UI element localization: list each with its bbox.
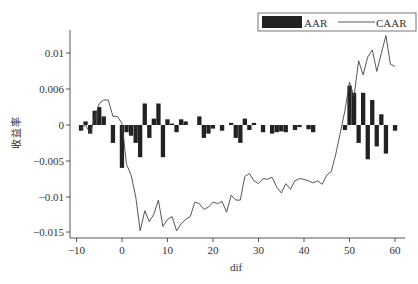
aar-bar <box>357 125 361 143</box>
aar-bar <box>297 125 301 127</box>
x-tick-label: 20 <box>208 244 220 256</box>
aar-bar <box>211 125 215 129</box>
aar-bars <box>79 86 397 168</box>
legend: AAR CAAR <box>258 13 416 31</box>
x-tick-label: 0 <box>119 244 125 256</box>
caar-line <box>81 36 395 231</box>
aar-bar <box>147 125 151 138</box>
legend-aar-swatch <box>262 16 302 28</box>
aar-bar <box>197 116 201 125</box>
aar-bar <box>184 121 188 125</box>
aar-bar <box>361 93 365 125</box>
y-ticks: 0.010.0060−0.005−0.01−0.015 <box>33 47 70 238</box>
x-ticks: −100102030405060 <box>68 238 401 256</box>
aar-bar <box>138 125 142 157</box>
aar-bar <box>83 121 87 125</box>
y-tick-label: −0.015 <box>33 226 64 238</box>
y-tick-label: −0.01 <box>39 191 64 203</box>
y-tick-label: 0.01 <box>45 47 64 59</box>
aar-bar <box>306 125 310 129</box>
aar-bar <box>370 100 374 125</box>
x-axis-label: dif <box>230 261 243 273</box>
aar-bar <box>165 119 169 125</box>
aar-bar <box>156 104 160 126</box>
aar-bar <box>247 125 251 130</box>
x-tick-label: 10 <box>162 244 174 256</box>
aar-bar <box>170 124 174 125</box>
aar-bar <box>379 114 383 125</box>
x-tick-label: 30 <box>253 244 265 256</box>
aar-bar <box>311 125 315 132</box>
x-tick-label: 60 <box>390 244 402 256</box>
aar-bar <box>220 125 224 131</box>
aar-bar <box>275 125 279 132</box>
aar-bar <box>234 125 238 138</box>
y-tick-label: 0.006 <box>39 83 64 95</box>
x-tick-label: −10 <box>68 244 86 256</box>
aar-bar <box>393 125 397 131</box>
aar-bar <box>152 119 156 125</box>
legend-aar-label: AAR <box>304 17 328 29</box>
aar-bar <box>243 119 247 125</box>
legend-caar-label: CAAR <box>376 17 407 29</box>
aar-bar <box>134 125 138 143</box>
aar-bar <box>284 125 288 132</box>
y-tick-label: 0 <box>59 119 65 131</box>
aar-bar <box>261 125 265 132</box>
aar-bar <box>120 125 124 168</box>
aar-bar <box>293 125 297 130</box>
aar-bar <box>111 125 115 143</box>
aar-bar <box>202 125 206 138</box>
aar-bar <box>352 93 356 125</box>
aar-bar <box>384 125 388 154</box>
aar-bar <box>174 125 178 132</box>
aar-bar <box>252 123 256 125</box>
y-tick-label: −0.005 <box>33 155 64 167</box>
x-tick-label: 40 <box>299 244 311 256</box>
x-tick-label: 50 <box>344 244 356 256</box>
aar-bar <box>143 104 147 126</box>
aar-bar <box>279 125 283 131</box>
aar-bar <box>179 119 183 125</box>
aar-bar <box>102 116 106 125</box>
aar-bar <box>229 123 233 125</box>
aar-bar <box>161 125 165 157</box>
chart: 0.010.0060−0.005−0.01−0.015 −10010203040… <box>0 0 418 284</box>
aar-bar <box>343 125 347 130</box>
aar-bar <box>366 125 370 159</box>
y-axis-label: 收益率 <box>10 116 22 149</box>
aar-bar <box>375 125 379 146</box>
aar-bar <box>238 125 242 143</box>
aar-bar <box>270 125 274 134</box>
aar-bar <box>206 125 210 134</box>
aar-bar <box>124 125 128 132</box>
aar-bar <box>129 125 133 136</box>
